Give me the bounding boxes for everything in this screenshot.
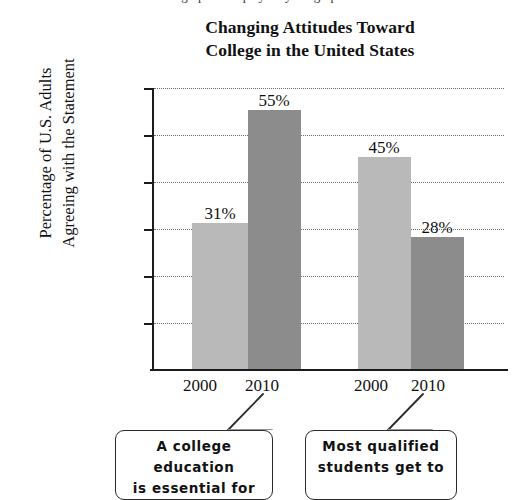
bar-group2-2000[interactable] [358,157,411,369]
bar-group1-2000[interactable] [192,223,248,369]
bar-value-group2-2000: 45% [346,139,422,157]
y-axis-tick-40 [144,182,153,184]
x-axis-line [150,369,508,371]
y-axis-tick-20 [144,276,153,278]
chart-title-line-1: Changing Attitudes Toward [120,16,500,39]
chart-title: Changing Attitudes Toward College in the… [120,16,500,62]
gridline-50 [154,135,504,136]
gridline-60 [154,88,504,89]
y-axis-title-line-2: Agreeing with the Statement [57,3,80,303]
callout-right-line-1: Most qualified [306,436,456,457]
bar-value-group1-2010: 55% [236,92,312,110]
bar-group1-2010[interactable] [248,110,301,369]
y-axis-title-line-1: Percentage of U.S. Adults [34,3,57,303]
callout-left-line-2: is essential for [116,478,272,499]
y-axis-tick-30 [144,229,153,231]
y-axis-tick-10 [144,323,153,325]
bar-value-group1-2000: 31% [182,205,258,223]
plot-area: 31% 55% 45% 28% [152,88,504,371]
callout-box-right[interactable]: Most qualified students get to [305,430,457,500]
callout-tail-right-icon [360,393,440,433]
bar-group2-2010[interactable] [411,237,464,369]
y-axis-title: Percentage of U.S. Adults Agreeing with … [34,3,80,303]
callout-left-line-1: A college education [116,436,272,478]
callout-right-line-2: students get to [306,457,456,478]
bar-value-group2-2010: 28% [399,219,475,237]
callout-tail-left-icon [200,393,280,433]
y-axis-tick-60 [144,88,153,90]
chart-title-line-2: College in the United States [120,39,500,62]
y-axis-tick-50 [144,135,153,137]
callout-box-left[interactable]: A college education is essential for [115,430,273,500]
gridline-40 [154,182,504,183]
